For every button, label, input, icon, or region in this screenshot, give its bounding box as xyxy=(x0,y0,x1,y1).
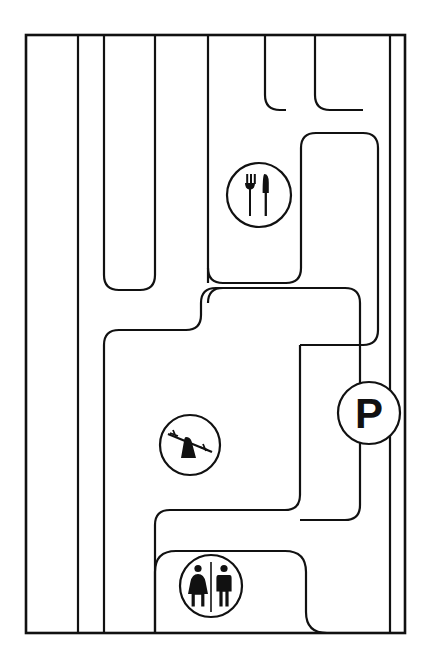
path-lower-left-block-left xyxy=(104,330,186,633)
path-upper-right-elbow xyxy=(315,95,363,110)
playground-icon[interactable] xyxy=(160,415,220,475)
restaurant-icon[interactable] xyxy=(227,163,291,227)
map-frame xyxy=(26,35,405,633)
site-map: Facility Site Map xyxy=(0,0,433,665)
parking-letter: P xyxy=(355,390,383,437)
path-mid-right-corridor xyxy=(186,288,360,520)
path-restaurant-spur-top xyxy=(265,35,286,110)
map-canvas: P xyxy=(0,0,433,665)
parking-icon[interactable]: P xyxy=(338,382,400,444)
restrooms-icon[interactable] xyxy=(180,555,242,617)
path-mid-band-curve xyxy=(208,288,223,303)
restaurant-icon-disc xyxy=(227,163,291,227)
path-upper-left-loop xyxy=(104,35,155,290)
